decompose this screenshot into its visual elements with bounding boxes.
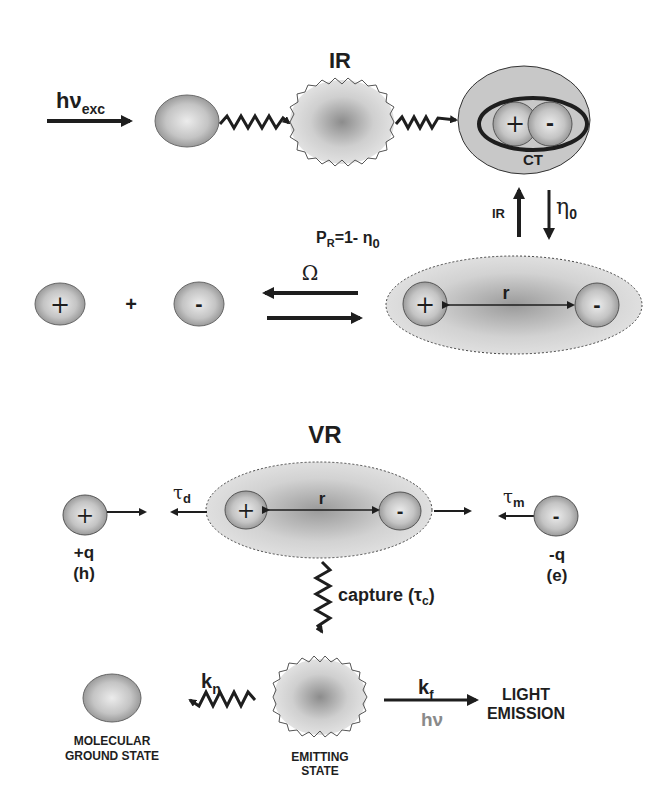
electron-minus-sign: -	[195, 291, 202, 316]
vr-pair-minus-sign: -	[397, 500, 404, 522]
hole-charge-label: +q	[74, 543, 94, 562]
wavy-arrow-icon	[220, 116, 289, 128]
ground-state-sphere-icon	[83, 674, 141, 722]
electron-name-label: (e)	[547, 566, 568, 585]
wavy-arrow-icon	[396, 117, 456, 128]
electron-charge-label: -q	[549, 545, 565, 564]
distance-label: r	[502, 283, 509, 303]
emitting-state-label-2: STATE	[301, 764, 339, 778]
excitation-label: hνexc	[56, 88, 105, 117]
molecule-sphere-icon	[155, 95, 219, 147]
nonradiative-wavy-arrow-icon	[190, 692, 255, 706]
kf-label: kf	[418, 676, 434, 702]
vr-title: VR	[308, 421, 341, 448]
hole-plus-sign: +	[50, 291, 70, 319]
ground-state-label-2: GROUND STATE	[65, 749, 159, 763]
pair-minus-sign: -	[593, 292, 600, 317]
plus-operator: +	[125, 293, 137, 315]
capture-label: capture (τc)	[338, 585, 435, 608]
photon-label: hν	[421, 709, 443, 730]
exciton-formation-diagram: IR hνexc + - CT IR η0 PR=1- η0 + + - Ω	[0, 0, 670, 795]
light-emission-label-1: LIGHT	[502, 686, 550, 703]
ct-minus-sign: -	[546, 109, 554, 136]
vr-distance-label: r	[319, 489, 326, 508]
ground-state-label-1: MOLECULAR	[74, 734, 151, 748]
emitting-state-label-1: EMITTING	[291, 750, 348, 764]
tau-m-label: τm	[503, 486, 525, 510]
pair-plus-sign: +	[415, 291, 435, 319]
eta-label: η0	[556, 194, 577, 222]
free-electron-minus-sign: -	[553, 505, 560, 527]
free-hole-plus-sign: +	[76, 503, 94, 528]
ir-title: IR	[329, 48, 351, 73]
vr-pair-plus-sign: +	[237, 498, 255, 523]
tau-d-label: τd	[173, 482, 191, 506]
excited-state-cloud-icon	[290, 78, 394, 166]
ct-label: CT	[523, 151, 543, 168]
capture-wavy-arrow-icon	[316, 562, 330, 632]
hole-name-label: (h)	[73, 564, 95, 583]
recombination-probability-label: PR=1- η0	[316, 229, 380, 251]
light-emission-label-2: EMISSION	[487, 705, 565, 722]
ct-plus-sign: +	[505, 110, 525, 138]
ir-arrow-label: IR	[492, 206, 506, 221]
omega-label: Ω	[302, 261, 319, 285]
emitting-state-cloud-icon	[273, 656, 367, 737]
